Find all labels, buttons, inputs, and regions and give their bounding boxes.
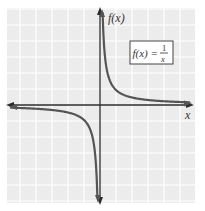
formula-box: f(x) = 1 x xyxy=(130,41,173,64)
formula-lhs: f(x) = xyxy=(133,47,158,60)
y-axis-label: f(x) xyxy=(108,11,125,25)
formula-denominator: x xyxy=(160,54,165,64)
x-axis-label: x xyxy=(184,108,191,122)
reciprocal-function-graph: f(x) x f(x) = 1 x xyxy=(0,0,205,211)
formula-numerator: 1 xyxy=(162,43,166,53)
